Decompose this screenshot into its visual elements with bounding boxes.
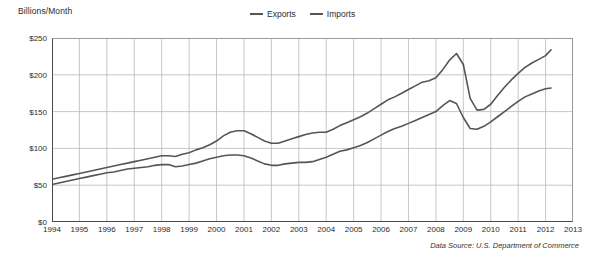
y-tick-label: $200 bbox=[29, 70, 47, 79]
x-tick-label: 2002 bbox=[262, 225, 280, 234]
x-tick-label: 1995 bbox=[71, 225, 89, 234]
x-tick-label: 2008 bbox=[427, 225, 445, 234]
legend-label-exports: Exports bbox=[267, 9, 296, 19]
x-tick-label: 1998 bbox=[153, 225, 171, 234]
chart-legend: Exports Imports bbox=[250, 9, 355, 19]
legend-swatch-exports-icon bbox=[250, 13, 263, 15]
y-tick-label: $250 bbox=[29, 34, 47, 43]
plot-frame bbox=[52, 38, 573, 222]
x-tick-label: 2007 bbox=[400, 225, 418, 234]
legend-item-exports[interactable]: Exports bbox=[250, 9, 296, 19]
y-tick-label: $50 bbox=[34, 181, 47, 190]
legend-item-imports[interactable]: Imports bbox=[310, 9, 355, 19]
y-axis-title: Billions/Month bbox=[18, 6, 72, 16]
x-tick-label: 2003 bbox=[290, 225, 308, 234]
plot-area bbox=[52, 38, 573, 222]
x-tick-label: 2012 bbox=[537, 225, 555, 234]
y-tick-label: $150 bbox=[29, 107, 47, 116]
y-axis-tick-labels: $250$200$150$100$50$0 bbox=[0, 38, 47, 222]
x-tick-label: 2013 bbox=[564, 225, 582, 234]
x-tick-label: 2000 bbox=[208, 225, 226, 234]
legend-label-imports: Imports bbox=[327, 9, 355, 19]
legend-swatch-imports-icon bbox=[310, 13, 323, 15]
x-tick-label: 1996 bbox=[98, 225, 116, 234]
y-tick-label: $100 bbox=[29, 144, 47, 153]
source-note: Data Source: U.S. Department of Commerce bbox=[430, 241, 579, 250]
x-tick-label: 2001 bbox=[235, 225, 253, 234]
x-tick-label: 1997 bbox=[125, 225, 143, 234]
x-tick-label: 2005 bbox=[345, 225, 363, 234]
exports-imports-line-chart: Billions/Month Exports Imports $250$200$… bbox=[0, 0, 597, 266]
x-tick-label: 2009 bbox=[454, 225, 472, 234]
x-tick-label: 1994 bbox=[43, 225, 61, 234]
x-tick-label: 2010 bbox=[482, 225, 500, 234]
x-tick-label: 2004 bbox=[317, 225, 335, 234]
x-axis-tick-labels: 1994199519961997199819992000200120022003… bbox=[52, 225, 573, 239]
x-tick-label: 1999 bbox=[180, 225, 198, 234]
x-tick-label: 2006 bbox=[372, 225, 390, 234]
x-tick-label: 2011 bbox=[510, 225, 527, 234]
